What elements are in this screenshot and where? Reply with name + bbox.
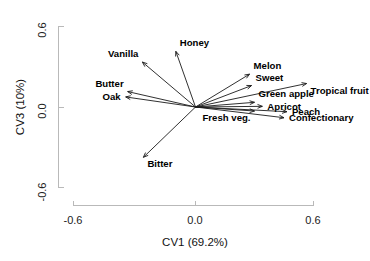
label-tropical-fruit: Tropical fruit <box>311 85 370 96</box>
x-axis-line <box>74 201 314 206</box>
y-axis-title: CV3 (10%) <box>14 79 26 135</box>
biplot-figure: 0.6 0.0 -0.6 CV3 (10%) -0.6 0.0 0.6 CV1 … <box>0 0 370 261</box>
vector-sweet <box>196 86 252 107</box>
x-axis-title: CV1 (69.2%) <box>162 236 228 248</box>
label-green-apple: Green apple <box>259 88 314 99</box>
y-axis: 0.6 0.0 -0.6 CV3 (10%) <box>14 22 64 201</box>
x-tick-label-right: 0.6 <box>305 214 320 226</box>
vector-melon <box>196 74 250 107</box>
label-honey: Honey <box>180 37 210 48</box>
y-tick-label-top: 0.6 <box>36 22 48 37</box>
label-melon: Melon <box>254 60 282 71</box>
label-butter: Butter <box>95 78 124 89</box>
x-axis: -0.6 0.0 0.6 CV1 (69.2%) <box>64 201 321 249</box>
label-bitter: Bitter <box>147 158 172 169</box>
vector-bitter <box>143 107 195 157</box>
label-sweet: Sweet <box>256 72 285 83</box>
vector-butter <box>128 92 196 107</box>
x-tick-label-left: -0.6 <box>64 214 83 226</box>
x-tick-label-mid: 0.0 <box>187 214 202 226</box>
y-tick-label-mid: 0.0 <box>36 103 48 118</box>
biplot-canvas: 0.6 0.0 -0.6 CV3 (10%) -0.6 0.0 0.6 CV1 … <box>0 0 370 261</box>
loading-labels: VanillaHoneyButterOakBitterMelonSweetTro… <box>95 37 369 169</box>
label-vanilla: Vanilla <box>108 48 139 59</box>
label-fresh-veg: Fresh veg. <box>203 112 251 123</box>
label-oak: Oak <box>103 91 122 102</box>
y-tick-label-bottom: -0.6 <box>36 183 48 202</box>
label-confectionary: Confectionary <box>289 112 354 123</box>
